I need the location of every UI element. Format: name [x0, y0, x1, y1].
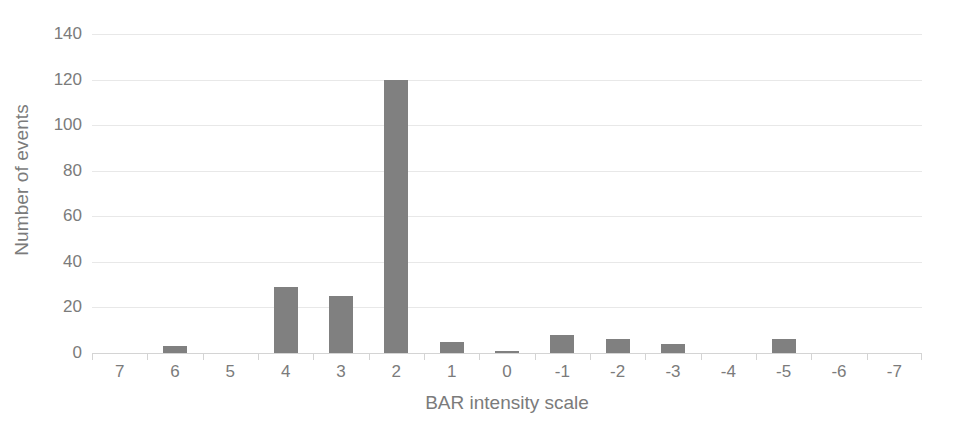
bar-slot	[369, 34, 424, 353]
y-axis-tick-label: 0	[73, 343, 82, 363]
tick-mark	[203, 353, 204, 360]
y-axis-tick-labels: 020406080100120140	[44, 0, 88, 443]
bar[interactable]	[163, 346, 187, 353]
y-axis-tick-label: 20	[63, 297, 82, 317]
tick-mark	[811, 353, 812, 360]
tick-mark	[921, 353, 922, 360]
bar-slot	[313, 34, 368, 353]
bar-slot	[479, 34, 534, 353]
bar-slot	[424, 34, 479, 353]
bar-slot	[147, 34, 202, 353]
bar-chart: Number of events 020406080100120140 7654…	[0, 0, 954, 443]
y-axis-tick-label: 140	[54, 24, 82, 44]
bars-layer	[92, 34, 922, 353]
x-axis-tick-label: 5	[226, 362, 235, 382]
bar[interactable]	[384, 80, 408, 353]
x-axis-tick-label: -5	[776, 362, 791, 382]
tick-mark	[424, 353, 425, 360]
tick-mark	[92, 353, 93, 360]
bar[interactable]	[661, 344, 685, 353]
x-axis-tick-label: 0	[502, 362, 511, 382]
tick-mark	[258, 353, 259, 360]
tick-mark	[701, 353, 702, 360]
y-axis-tick-label: 60	[63, 206, 82, 226]
y-axis-tick-label: 80	[63, 161, 82, 181]
tick-mark	[590, 353, 591, 360]
bar-slot	[590, 34, 645, 353]
x-axis-tick-label: 6	[170, 362, 179, 382]
y-axis-title: Number of events	[0, 0, 44, 360]
tick-mark	[867, 353, 868, 360]
y-axis-tick-label: 120	[54, 70, 82, 90]
x-axis-tick-labels: 76543210-1-2-3-4-5-6-7	[92, 362, 922, 388]
tick-mark	[756, 353, 757, 360]
bar-slot	[645, 34, 700, 353]
x-axis-tick-label: 7	[115, 362, 124, 382]
bar[interactable]	[772, 339, 796, 353]
bar[interactable]	[274, 287, 298, 353]
bar-slot	[811, 34, 866, 353]
x-axis-tick-label: -1	[555, 362, 570, 382]
bar-slot	[258, 34, 313, 353]
y-axis-title-label: Number of events	[11, 104, 33, 256]
x-axis-tick-label: -3	[665, 362, 680, 382]
tick-mark	[147, 353, 148, 360]
tick-mark	[479, 353, 480, 360]
x-axis-tick-label: -6	[831, 362, 846, 382]
tick-mark	[369, 353, 370, 360]
bar[interactable]	[440, 342, 464, 353]
bar-slot	[92, 34, 147, 353]
bar-slot	[203, 34, 258, 353]
x-axis-tick-label: -4	[721, 362, 736, 382]
tick-mark	[645, 353, 646, 360]
x-axis-tick-marks	[92, 353, 922, 360]
x-axis-tick-label: 4	[281, 362, 290, 382]
x-axis-title: BAR intensity scale	[92, 392, 922, 414]
bar-slot	[756, 34, 811, 353]
tick-mark	[535, 353, 536, 360]
y-axis-tick-label: 100	[54, 115, 82, 135]
bar-slot	[867, 34, 922, 353]
x-axis-tick-label: 1	[447, 362, 456, 382]
bar-slot	[535, 34, 590, 353]
tick-mark	[313, 353, 314, 360]
x-axis-tick-label: 2	[392, 362, 401, 382]
x-axis-tick-label: -2	[610, 362, 625, 382]
bar[interactable]	[606, 339, 630, 353]
x-axis-tick-label: -7	[887, 362, 902, 382]
bar[interactable]	[550, 335, 574, 353]
x-axis-tick-label: 3	[336, 362, 345, 382]
y-axis-tick-label: 40	[63, 252, 82, 272]
bar[interactable]	[329, 296, 353, 353]
bar-slot	[701, 34, 756, 353]
